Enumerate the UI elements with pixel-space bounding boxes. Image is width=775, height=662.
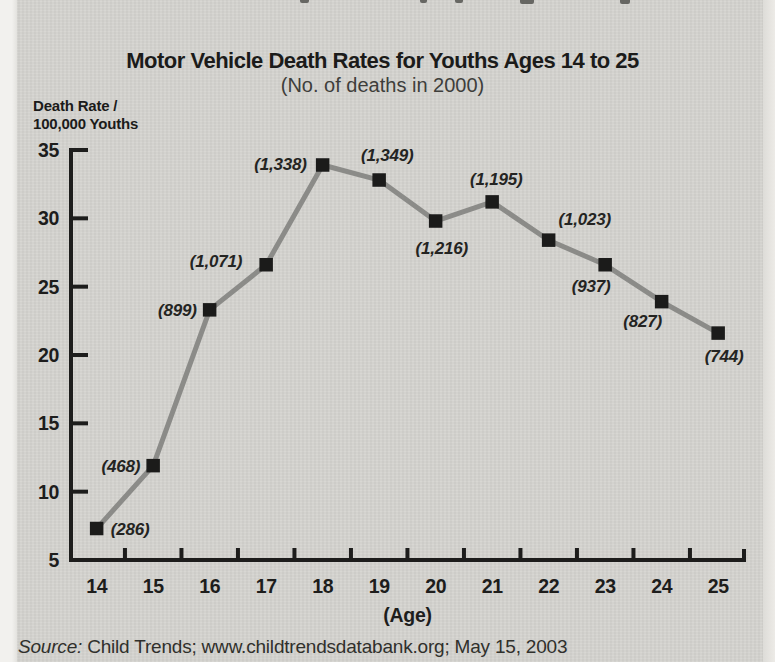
data-point-label: (1,023) [558,210,611,229]
x-tick-label: 25 [708,575,730,597]
x-tick-label: 16 [199,575,221,597]
data-point-marker [146,459,160,473]
x-tick-label: 24 [651,575,673,597]
x-tick-label: 22 [538,575,560,597]
y-tick-label: 10 [38,481,60,503]
y-tick-label: 25 [38,276,60,298]
source-text: Child Trends; www.childtrendsdatabank.or… [82,636,567,657]
x-tick-label: 15 [143,575,165,597]
y-tick-label: 20 [38,344,60,366]
x-axis-title: (Age) [383,604,431,626]
data-point-label: (899) [158,301,197,320]
data-point-marker [90,522,104,536]
x-tick-label: 20 [425,575,447,597]
y-tick-label: 30 [38,207,60,229]
data-point-marker [316,158,330,172]
axes [71,150,744,560]
data-point-label: (744) [705,347,744,366]
data-point-label: (1,216) [415,239,468,258]
data-point-marker [485,195,499,209]
x-tick-label: 17 [256,575,277,597]
x-tick-label: 21 [482,575,504,597]
data-point-marker [598,258,612,272]
data-point-label: (1,338) [254,155,307,174]
data-point-label: (286) [111,520,150,539]
source-prefix: Source: [18,636,82,657]
data-point-label: (1,071) [190,252,243,271]
line-chart-canvas: 5101520253035141516171819202122232425(Ag… [0,0,775,662]
data-point-marker [542,233,556,247]
scanned-page: Motor Vehicle Death Rates for Youths Age… [0,0,775,662]
y-tick-label: 5 [48,549,59,571]
x-tick-label: 18 [312,575,334,597]
x-tick-label: 19 [369,575,391,597]
data-point-label: (1,349) [361,146,414,165]
data-point-marker [655,295,669,309]
data-point-marker [203,303,217,317]
data-point-label: (827) [623,312,662,331]
source-line: Source: Child Trends; www.childtrendsdat… [18,636,567,658]
x-tick-label: 14 [86,575,108,597]
data-point-marker [711,326,725,340]
data-point-marker [259,258,273,272]
data-point-marker [429,214,443,228]
data-point-label: (1,195) [470,170,523,189]
y-tick-label: 15 [38,412,60,434]
data-point-label: (937) [572,277,611,296]
data-point-marker [372,173,386,187]
x-tick-label: 23 [595,575,617,597]
y-tick-label: 35 [38,139,60,161]
data-point-label: (468) [102,457,141,476]
data-line [97,165,719,529]
